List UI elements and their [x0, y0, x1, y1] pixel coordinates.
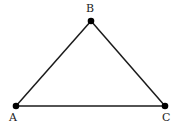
label-a: A [8, 111, 18, 124]
label-c: C [162, 111, 170, 124]
edge-bc [91, 21, 165, 106]
point-a [13, 103, 20, 110]
point-c [162, 103, 169, 110]
triangle-diagram: A B C [0, 0, 176, 126]
point-b [88, 18, 95, 25]
edge-ab [16, 21, 91, 106]
label-b: B [86, 2, 94, 15]
